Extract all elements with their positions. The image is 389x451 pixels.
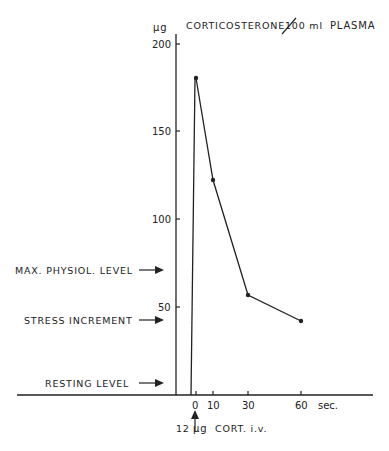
chart: 200 150 100 50 0 10 30 60 sec. µg CORTIC…	[0, 0, 389, 451]
arrow-resting-level-icon	[139, 379, 164, 387]
y-tick-50: 50	[158, 302, 171, 313]
x-unit: sec.	[318, 400, 338, 411]
arrow-max-physiol-icon	[139, 266, 164, 274]
y-tick-150: 150	[152, 126, 171, 137]
x-tick-10: 10	[207, 400, 220, 411]
injection-unit: µg	[193, 423, 207, 434]
y-tick-100: 100	[152, 214, 171, 225]
data-points	[194, 76, 303, 323]
label-resting-level: RESTING LEVEL	[45, 378, 129, 389]
label-max-physiol: MAX. PHYSIOL. LEVEL	[15, 265, 133, 276]
x-tick-60: 60	[295, 400, 308, 411]
x-tick-30: 30	[242, 400, 255, 411]
injection-label: CORT. i.v.	[215, 423, 267, 434]
data-line	[196, 78, 301, 321]
y-tick-200: 200	[152, 39, 171, 50]
title-corticosterone: CORTICOSTERONE	[186, 20, 285, 31]
x-tick-0: 0	[192, 400, 198, 411]
injection-line	[191, 78, 195, 395]
arrow-stress-increment-icon	[139, 316, 164, 324]
y-unit: µg	[153, 22, 167, 33]
title-plasma: PLASMA	[330, 20, 375, 31]
title-100ml: 100 ml	[285, 20, 323, 31]
injection-dose: 12	[176, 423, 190, 434]
label-stress-increment: STRESS INCREMENT	[24, 315, 133, 326]
